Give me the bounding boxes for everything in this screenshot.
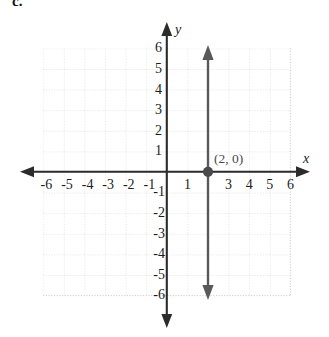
y-tick-label: -1 [153, 185, 165, 199]
y-tick-label: 3 [155, 103, 162, 117]
x-tick-label: -4 [82, 178, 94, 192]
x-tick-label: 5 [266, 178, 273, 192]
y-tick-label: 4 [155, 83, 162, 97]
point-annotation-label: (2, 0) [214, 152, 243, 166]
y-tick-label: -3 [153, 227, 165, 241]
y-tick-label: 5 [155, 62, 162, 76]
x-tick-label: 1 [184, 178, 191, 192]
x-tick-label: 4 [246, 178, 253, 192]
y-tick-label: 1 [155, 144, 162, 158]
x-tick-label: -5 [61, 178, 73, 192]
x-tick-label: -3 [102, 178, 114, 192]
y-tick-label: 2 [155, 124, 162, 138]
x-tick-label: -2 [123, 178, 135, 192]
x-tick-label: -6 [41, 178, 53, 192]
y-tick-label: -6 [153, 288, 165, 302]
y-tick-label: 6 [155, 41, 162, 55]
coordinate-graph: -6 -5 -4 -3 -2 -1 1 3 4 5 6 6 5 4 3 2 1 … [0, 0, 329, 337]
plotted-point-2-0 [203, 167, 213, 177]
x-tick-label: 3 [225, 178, 232, 192]
y-tick-label: -5 [153, 268, 165, 282]
y-axis-label: y [175, 23, 181, 37]
y-tick-label: -4 [153, 247, 165, 261]
x-axis-label: x [303, 152, 309, 166]
x-tick-label: 6 [287, 178, 294, 192]
y-tick-label: -2 [153, 206, 165, 220]
